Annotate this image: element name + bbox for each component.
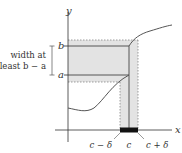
c-minus-delta-label: c − δ bbox=[90, 140, 112, 150]
c-minus-delta-leader bbox=[114, 133, 120, 139]
width-bracket bbox=[50, 46, 55, 75]
a-tick-label: a bbox=[58, 69, 64, 80]
x-axis-label: x bbox=[175, 124, 181, 135]
c-label: c bbox=[127, 140, 132, 150]
y-axis-label: y bbox=[65, 5, 72, 16]
width-annotation-line1: width at bbox=[10, 50, 46, 60]
delta-interval-bar bbox=[120, 128, 138, 133]
c-plus-delta-label: c + δ bbox=[146, 140, 168, 150]
discontinuity-diagram: y x b a width at least b − a c − δ c c +… bbox=[0, 0, 182, 153]
width-annotation-line2: least b − a bbox=[0, 61, 46, 71]
b-tick-label: b bbox=[58, 40, 64, 51]
c-plus-delta-leader bbox=[138, 133, 144, 139]
